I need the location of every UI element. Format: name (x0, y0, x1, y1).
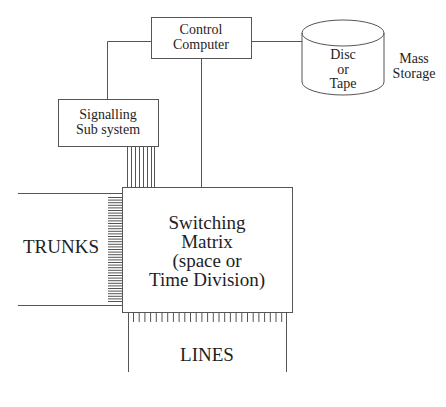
signalling-label: Signalling Sub system (58, 107, 158, 138)
signalling-wires (128, 146, 155, 187)
switching-matrix-label: Switching Matrix (space or Time Division… (122, 213, 292, 289)
mass-storage-line1: Mass (386, 51, 442, 66)
switching-matrix-line4: Time Division) (122, 270, 292, 289)
control-to-signalling-line (108, 42, 152, 100)
storage-line3: Tape (302, 77, 384, 92)
control-computer-line2: Computer (151, 37, 251, 52)
mass-storage-label: Mass Storage (386, 51, 442, 82)
storage-line2: or (302, 63, 384, 78)
signalling-line2: Sub system (58, 122, 158, 137)
storage-label: Disc or Tape (302, 48, 384, 92)
trunk-connection-hatching (108, 198, 122, 302)
signalling-line1: Signalling (58, 107, 158, 122)
control-computer-label: Control Computer (151, 22, 251, 53)
mass-storage-line2: Storage (386, 66, 442, 81)
switching-matrix-line1: Switching (122, 213, 292, 232)
lines-label: LINES (128, 345, 286, 366)
line-connection-ticks (134, 313, 282, 322)
control-computer-line1: Control (151, 22, 251, 37)
switching-matrix-line2: Matrix (122, 232, 292, 251)
trunks-label: TRUNKS (18, 237, 104, 258)
switching-matrix-line3: (space or (122, 251, 292, 270)
storage-line1: Disc (302, 48, 384, 63)
